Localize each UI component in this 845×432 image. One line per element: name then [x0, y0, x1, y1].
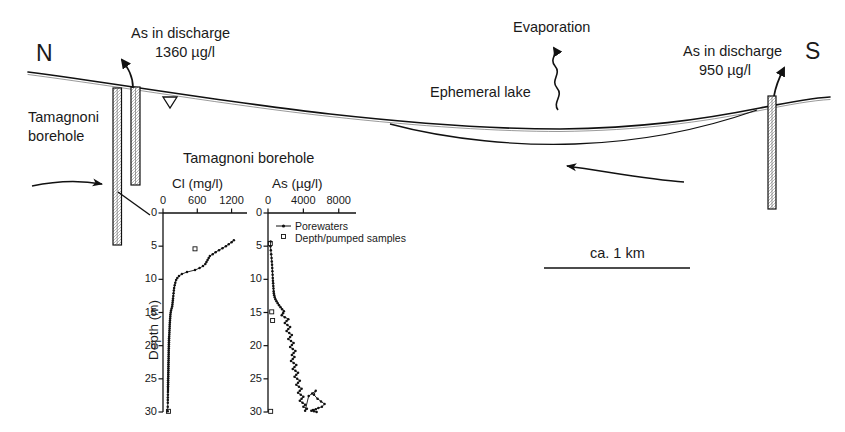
- porewater-point: [295, 374, 298, 377]
- y-tick-label: 15: [141, 306, 157, 318]
- porewater-point: [297, 372, 300, 375]
- porewater-point: [299, 399, 302, 402]
- porewater-point: [296, 378, 299, 381]
- y-tick-label: 10: [246, 272, 262, 284]
- porewater-point: [230, 241, 233, 244]
- porewater-point: [270, 249, 273, 252]
- porewater-point: [291, 344, 294, 347]
- porewater-point: [304, 403, 307, 406]
- porewater-point: [227, 243, 230, 246]
- porewater-point: [307, 395, 310, 398]
- porewater-point: [289, 326, 292, 329]
- x-tick-label: 0: [150, 194, 176, 206]
- porewater-point: [294, 370, 297, 373]
- porewater-point: [172, 295, 175, 298]
- legend-square-marker: [282, 235, 286, 239]
- porewater-point: [317, 407, 320, 410]
- porewater-point: [270, 257, 273, 260]
- porewater-point: [270, 253, 273, 256]
- porewater-point: [292, 342, 295, 345]
- porewater-point: [204, 263, 207, 266]
- porewater-point: [181, 273, 184, 276]
- porewater-point: [295, 364, 298, 367]
- porewater-point: [306, 407, 309, 410]
- porewater-point: [297, 382, 300, 385]
- pumped-sample-point: [269, 409, 273, 413]
- porewater-point: [286, 324, 289, 327]
- porewater-point: [166, 405, 169, 408]
- porewater-point: [278, 304, 281, 307]
- y-tick-label: 20: [246, 339, 262, 351]
- y-tick-label: 5: [141, 239, 157, 251]
- porewater-point: [302, 405, 305, 408]
- porewater-point: [292, 368, 295, 371]
- porewater-point: [288, 332, 291, 335]
- porewater-point: [167, 391, 170, 394]
- porewater-point: [173, 287, 176, 290]
- porewater-point: [272, 285, 275, 288]
- porewater-point: [292, 352, 295, 355]
- porewater-point: [323, 403, 326, 406]
- porewater-point: [292, 348, 295, 351]
- porewater-profile-line: [168, 240, 234, 411]
- porewater-point: [315, 411, 318, 414]
- porewater-point: [167, 394, 170, 397]
- porewater-point: [293, 356, 296, 359]
- porewater-point: [218, 249, 221, 252]
- porewater-point: [315, 390, 318, 393]
- porewater-profile-line: [270, 242, 324, 412]
- porewater-point: [284, 316, 287, 319]
- y-tick-label: 15: [246, 306, 262, 318]
- porewater-point: [272, 277, 275, 280]
- x-tick-label: 8000: [326, 194, 352, 206]
- porewater-point: [300, 397, 303, 400]
- porewater-point: [304, 409, 307, 412]
- porewater-point: [301, 401, 304, 404]
- porewater-point: [271, 273, 274, 276]
- pumped-sample-point: [270, 310, 274, 314]
- porewater-point: [292, 358, 295, 361]
- porewater-point: [214, 251, 217, 254]
- porewater-point: [299, 394, 302, 397]
- porewater-point: [290, 340, 293, 343]
- porewater-point: [315, 408, 318, 411]
- porewater-point: [173, 289, 176, 292]
- porewater-point: [280, 314, 283, 317]
- y-tick-label: 25: [246, 372, 262, 384]
- pumped-sample-point: [271, 318, 275, 322]
- porewater-point: [202, 265, 205, 268]
- porewater-point: [272, 282, 275, 285]
- x-tick-label: 1200: [219, 194, 245, 206]
- porewater-point: [297, 392, 300, 395]
- porewater-point: [284, 322, 287, 325]
- porewater-point: [198, 267, 201, 270]
- porewater-point: [289, 336, 292, 339]
- porewater-point: [294, 350, 297, 353]
- porewater-point: [233, 239, 236, 242]
- porewater-point: [272, 287, 275, 290]
- porewater-point: [172, 292, 175, 295]
- y-tick-label: 25: [141, 372, 157, 384]
- porewater-point: [281, 308, 284, 311]
- porewater-point: [279, 306, 282, 309]
- porewater-point: [298, 386, 301, 389]
- porewater-point: [302, 395, 305, 398]
- pumped-sample-point: [193, 247, 197, 251]
- legend-label-porewaters: Porewaters: [295, 220, 348, 232]
- porewater-point: [316, 397, 319, 400]
- porewater-point: [313, 410, 316, 413]
- y-tick-label: 5: [246, 239, 262, 251]
- porewater-point: [310, 409, 313, 412]
- porewater-point: [271, 267, 274, 270]
- porewater-point: [289, 346, 292, 349]
- legend-label-pumped: Depth/pumped samples: [295, 232, 406, 244]
- porewater-point: [299, 380, 302, 383]
- porewater-point: [194, 269, 197, 272]
- porewater-point: [272, 279, 275, 282]
- porewater-point: [299, 390, 302, 393]
- cl-profile-chart: [159, 209, 248, 414]
- porewater-point: [167, 399, 170, 402]
- figure-root: N S As in discharge 1360 µg/l As in disc…: [0, 0, 845, 432]
- x-tick-label: 0: [255, 194, 281, 206]
- porewater-point: [300, 388, 303, 391]
